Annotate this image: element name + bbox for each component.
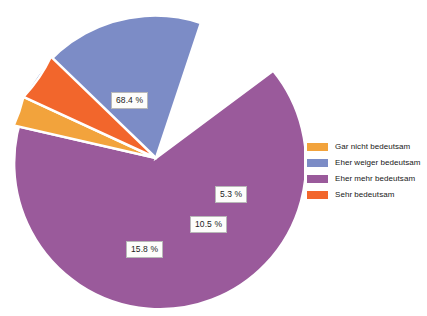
legend-item-label: Eher weiger bedeutsam	[335, 159, 421, 167]
legend-item-eher-mehr-bedeutsam[interactable]: Eher mehr bedeutsam	[307, 171, 423, 187]
legend-swatch-icon	[307, 159, 328, 167]
legend-swatch-icon	[307, 191, 328, 199]
pie-data-label-sehr-bedeutsam: 5.3 %	[215, 186, 247, 203]
pie-chart-svg	[8, 6, 304, 310]
legend-item-label: Gar nicht bedeutsam	[335, 143, 410, 151]
chart-legend: Gar nicht bedeutsam Eher weiger bedeutsa…	[307, 139, 423, 203]
legend-item-gar-nicht-bedeutsam[interactable]: Gar nicht bedeutsam	[307, 139, 423, 155]
pie-data-label-gar-nicht-bedeutsam: 10.5 %	[190, 216, 227, 233]
legend-item-label: Sehr bedeutsam	[335, 191, 394, 199]
legend-item-eher-weiger-bedeutsam[interactable]: Eher weiger bedeutsam	[307, 155, 423, 171]
pie-chart-plot-area: 68.4 % 15.8 % 10.5 % 5.3 %	[8, 6, 304, 310]
pie-slices	[14, 16, 304, 310]
legend-item-label: Eher mehr bedeutsam	[335, 175, 415, 183]
legend-swatch-icon	[307, 143, 328, 151]
pie-data-label-eher-weiger-bedeutsam: 15.8 %	[126, 241, 163, 258]
legend-item-sehr-bedeutsam[interactable]: Sehr bedeutsam	[307, 187, 423, 203]
pie-data-label-eher-mehr-bedeutsam: 68.4 %	[111, 92, 148, 109]
legend-swatch-icon	[307, 175, 328, 183]
pie-chart-figure: 68.4 % 15.8 % 10.5 % 5.3 % Gar nicht bed…	[0, 0, 427, 316]
